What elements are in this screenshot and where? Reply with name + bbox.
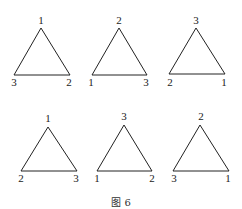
figure-6: 1 3 2 2 1 3 3 2 1 1 2 3 3 1 2 2 3 1 图 6: [0, 0, 242, 209]
triangle-1: 1 3 2: [11, 14, 72, 88]
vertex-label-top: 1: [45, 112, 51, 124]
vertex-label-bottom-right: 2: [149, 172, 155, 184]
vertex-label-bottom-left: 2: [167, 76, 173, 88]
vertex-label-bottom-right: 2: [66, 76, 72, 88]
vertex-label-bottom-left: 1: [94, 172, 100, 184]
triangle-6: 2 3 1: [171, 110, 231, 184]
triangle-5: 3 1 2: [94, 110, 155, 184]
figure-caption: 图 6: [111, 197, 131, 208]
triangle-3: 3 2 1: [167, 14, 227, 88]
vertex-label-bottom-left: 3: [171, 172, 177, 184]
vertex-label-bottom-right: 1: [225, 172, 231, 184]
vertex-label-top: 2: [198, 110, 204, 122]
vertex-label-bottom-right: 3: [143, 76, 149, 88]
vertex-label-bottom-right: 1: [221, 76, 227, 88]
vertex-label-top: 2: [116, 14, 122, 26]
vertex-label-bottom-left: 2: [18, 172, 24, 184]
vertex-label-bottom-left: 3: [11, 76, 17, 88]
triangle-4: 1 2 3: [18, 112, 79, 184]
vertex-label-top: 1: [38, 14, 44, 26]
vertex-label-bottom-left: 1: [88, 76, 94, 88]
triangle-2: 2 1 3: [88, 14, 149, 88]
vertex-label-top: 3: [193, 14, 199, 26]
vertex-label-bottom-right: 3: [73, 172, 79, 184]
vertex-label-top: 3: [121, 110, 127, 122]
